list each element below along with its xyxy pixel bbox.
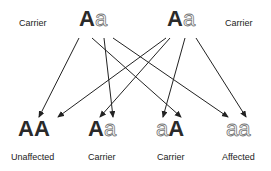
allele-dominant: A <box>34 116 50 141</box>
offspring-aa-genotype: aa <box>226 118 251 140</box>
allele-recessive: a <box>238 116 250 141</box>
arrow-p2a-to-Aa <box>100 38 170 117</box>
parent-right-label: Carrier <box>225 18 253 28</box>
arrow-p1a-to-aa <box>113 38 228 117</box>
allele-recessive: a <box>226 116 238 141</box>
arrow-p1A-to-AA <box>39 38 79 117</box>
arrow-p2A-to-aA <box>163 38 185 117</box>
allele-recessive: a <box>104 116 116 141</box>
arrow-p2a-to-aa <box>196 38 246 117</box>
allele-recessive: a <box>95 6 107 31</box>
offspring-AA-genotype: AA <box>18 118 50 140</box>
offspring-AA-label: Unaffected <box>11 152 54 162</box>
offspring-Aa-label: Carrier <box>88 152 116 162</box>
offspring-aA-genotype: aA <box>156 118 184 140</box>
allele-dominant: A <box>168 116 184 141</box>
parent-left-genotype: Aa <box>79 8 107 30</box>
allele-dominant: A <box>88 116 104 141</box>
offspring-aa-label: Affected <box>222 152 255 162</box>
offspring-aA-label: Carrier <box>157 152 185 162</box>
parent-right-genotype: Aa <box>167 8 195 30</box>
allele-dominant: A <box>167 6 183 31</box>
offspring-Aa-genotype: Aa <box>88 118 116 140</box>
allele-dominant: A <box>79 6 95 31</box>
allele-recessive: a <box>156 116 168 141</box>
allele-recessive: a <box>183 6 195 31</box>
parent-left-label: Carrier <box>19 18 47 28</box>
allele-dominant: A <box>18 116 34 141</box>
